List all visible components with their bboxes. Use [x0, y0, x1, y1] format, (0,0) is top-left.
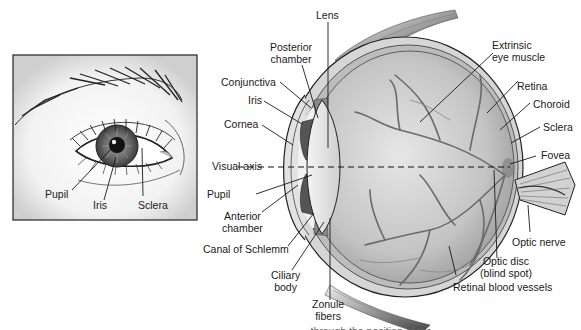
label-optic-nerve: Optic nerve — [512, 236, 566, 248]
label-canal-of-schlemm: Canal of Schlemm — [203, 243, 289, 255]
label-iris: Iris — [248, 94, 262, 106]
label-extrinsic-eye-muscle: Extrinsic eye muscle — [492, 39, 545, 63]
external-eye-panel — [13, 55, 197, 220]
label-external-pupil: Pupil — [45, 188, 68, 200]
label-fovea: Fovea — [541, 149, 570, 161]
label-anterior-chamber: Anterior chamber — [222, 210, 263, 234]
caption-cut-off: …through the position of the… — [300, 324, 580, 330]
label-posterior-chamber: Posterior chamber — [270, 41, 312, 65]
label-lens: Lens — [316, 9, 339, 21]
label-zonule-fibers: Zonule fibers — [312, 298, 344, 322]
label-visual-axis: Visual axis — [212, 160, 262, 172]
label-pupil: Pupil — [207, 188, 230, 200]
label-external-iris: Iris — [93, 199, 107, 211]
label-retina: Retina — [517, 80, 547, 92]
label-retinal-blood-vessels: Retinal blood vessels — [453, 281, 552, 293]
label-cornea: Cornea — [224, 118, 258, 130]
label-ciliary-body: Ciliary body — [271, 269, 300, 293]
label-external-sclera: Sclera — [138, 199, 168, 211]
eye-anatomy-figure: Pupil Iris Sclera Lens Posterior chamber… — [0, 0, 581, 330]
label-sclera: Sclera — [543, 121, 573, 133]
label-choroid: Choroid — [533, 98, 570, 110]
label-optic-disc: Optic disc (blind spot) — [480, 255, 532, 279]
label-conjunctiva: Conjunctiva — [221, 76, 276, 88]
